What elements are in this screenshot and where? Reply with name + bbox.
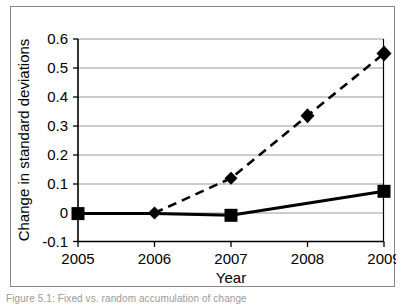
x-tick-label-2008: 2008 [291,250,324,267]
y-tick-label-0.2: 0.2 [47,146,68,163]
figure-container: 0.6 0.5 0.4 0.3 0.2 0.1 0 -0.1 2005 2006… [0,0,406,305]
y-tick-label-0.6: 0.6 [47,30,68,47]
data-point-square-2009 [378,185,391,198]
data-point-square-2007 [225,209,238,222]
data-point-square-2005 [72,207,85,220]
chart-svg: 0.6 0.5 0.4 0.3 0.2 0.1 0 -0.1 2005 2006… [11,7,396,288]
x-tick-label-2007: 2007 [214,250,247,267]
x-tick-label-2005: 2005 [61,250,94,267]
chart-frame: 0.6 0.5 0.4 0.3 0.2 0.1 0 -0.1 2005 2006… [10,6,395,287]
y-tick-label-0.3: 0.3 [47,117,68,134]
x-axis-title: Year [216,269,246,286]
y-tick-label-0: 0 [60,204,68,221]
x-tick-label-2006: 2006 [138,250,171,267]
x-tick-label-2009: 2009 [367,250,396,267]
y-tick-label-0.1: 0.1 [47,175,68,192]
y-tick-label-0.4: 0.4 [47,88,68,105]
y-tick-label--0.1: -0.1 [42,233,68,250]
y-tick-label-0.5: 0.5 [47,59,68,76]
x-tick-marks [78,242,384,248]
figure-caption: Figure 5.1: Fixed vs. random accumulatio… [6,293,406,305]
y-axis-title: Change in standard deviations [15,39,32,242]
